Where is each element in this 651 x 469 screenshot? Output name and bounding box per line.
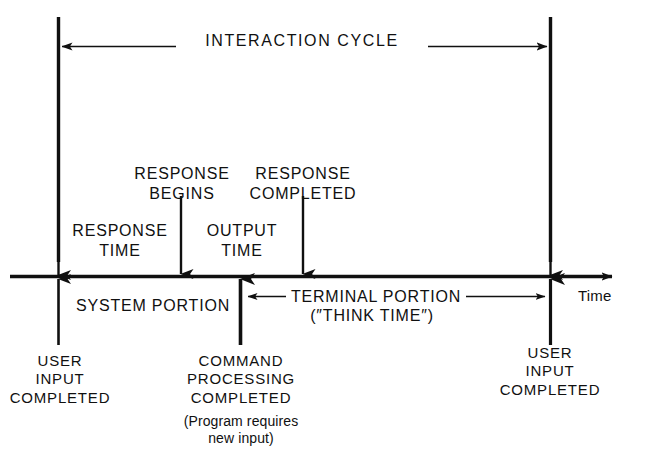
response-completed-label: RESPONSE COMPLETED: [230, 164, 376, 203]
system-portion-label: SYSTEM PORTION: [62, 296, 244, 316]
user-input-completed-right-label: USER INPUT COMPLETED: [494, 344, 606, 399]
response-begins-label: RESPONSE BEGINS: [116, 164, 248, 203]
timing-diagram: INTERACTION CYCLE RESPONSE BEGINS RESPON…: [0, 0, 651, 469]
output-time-label: OUTPUT TIME: [190, 221, 294, 260]
think-time-label: (″THINK TIME″): [286, 306, 458, 326]
response-time-label: RESPONSE TIME: [62, 221, 178, 260]
command-processing-completed-label: COMMAND PROCESSING COMPLETED: [158, 352, 324, 407]
program-requires-new-input-note: (Program requires new input): [158, 413, 324, 447]
interaction-cycle-label: INTERACTION CYCLE: [176, 31, 428, 51]
time-axis-label: Time: [578, 287, 638, 305]
user-input-completed-left-label: USER INPUT COMPLETED: [4, 352, 116, 407]
terminal-portion-label: TERMINAL PORTION: [286, 287, 466, 307]
